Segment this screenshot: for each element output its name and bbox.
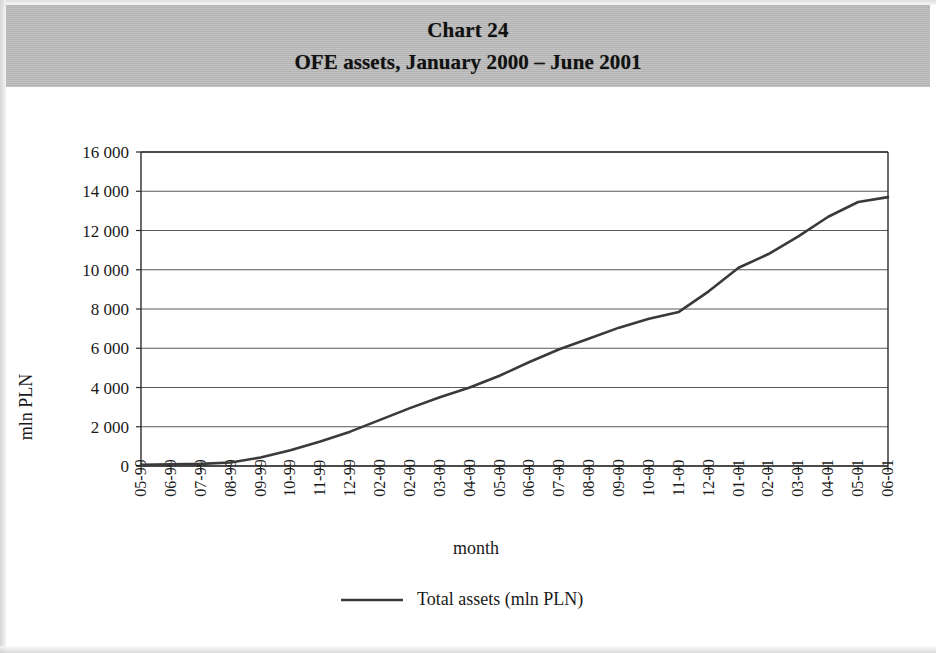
x-tick-label: 09-99 xyxy=(252,459,269,496)
x-tick-label: 08-99 xyxy=(222,459,239,496)
x-axis-title: month xyxy=(453,538,499,558)
x-tick-label: 09-00 xyxy=(610,459,627,496)
y-tick-label: 6 000 xyxy=(91,339,129,358)
x-tick-label: 08-00 xyxy=(580,459,597,496)
y-tick-label: 4 000 xyxy=(91,379,129,398)
chart-title-band: Chart 24 OFE assets, January 2000 – June… xyxy=(6,5,930,87)
y-tick-label: 8 000 xyxy=(91,300,129,319)
x-tick-label: 04-01 xyxy=(819,459,836,496)
x-tick-label: 03-01 xyxy=(789,459,806,496)
y-tick-label: 2 000 xyxy=(91,418,129,437)
x-tick-label: 12-00 xyxy=(700,459,717,496)
y-tick-label: 0 xyxy=(121,457,130,476)
legend-label: Total assets (mln PLN) xyxy=(417,589,583,610)
x-axis-labels: 05-9906-9907-9908-9909-9910-9911-9912-99… xyxy=(132,459,896,496)
x-tick-label: 11-99 xyxy=(311,460,328,497)
y-tick-label: 14 000 xyxy=(82,182,129,201)
y-tick-label: 12 000 xyxy=(82,222,129,241)
y-axis-title: mln PLN xyxy=(16,374,36,441)
scanned-page: Chart 24 OFE assets, January 2000 – June… xyxy=(0,0,936,653)
chart-container: 02 0004 0006 0008 00010 00012 00014 0001… xyxy=(6,87,930,646)
x-tick-label: 07-00 xyxy=(550,459,567,496)
x-tick-label: 03-00 xyxy=(431,459,448,496)
x-tick-label: 02-00 xyxy=(401,459,418,496)
page-edge-bottom xyxy=(0,646,936,653)
chart-subtitle: OFE assets, January 2000 – June 2001 xyxy=(294,49,641,75)
line-chart: 02 0004 0006 0008 00010 00012 00014 0001… xyxy=(6,87,930,646)
y-tick-label: 10 000 xyxy=(82,261,129,280)
y-axis-ticks xyxy=(136,152,141,466)
x-tick-label: 02-00 xyxy=(371,459,388,496)
x-tick-label: 06-00 xyxy=(520,459,537,496)
x-tick-label: 10-00 xyxy=(640,459,657,496)
chart-legend: Total assets (mln PLN) xyxy=(341,589,583,610)
y-axis-labels: 02 0004 0006 0008 00010 00012 00014 0001… xyxy=(82,143,129,476)
chart-title: Chart 24 xyxy=(427,17,509,43)
x-tick-label: 10-99 xyxy=(281,459,298,496)
y-tick-label: 16 000 xyxy=(82,143,129,162)
x-tick-label: 05-00 xyxy=(491,459,508,496)
data-series xyxy=(141,197,888,465)
series-line xyxy=(141,197,888,465)
x-tick-label: 05-01 xyxy=(849,459,866,496)
grid-lines xyxy=(141,152,888,466)
x-tick-label: 04-00 xyxy=(461,459,478,496)
x-tick-label: 02-01 xyxy=(759,459,776,496)
x-tick-label: 12-99 xyxy=(341,459,358,496)
x-tick-label: 11-00 xyxy=(670,460,687,497)
x-tick-label: 01-01 xyxy=(730,459,747,496)
